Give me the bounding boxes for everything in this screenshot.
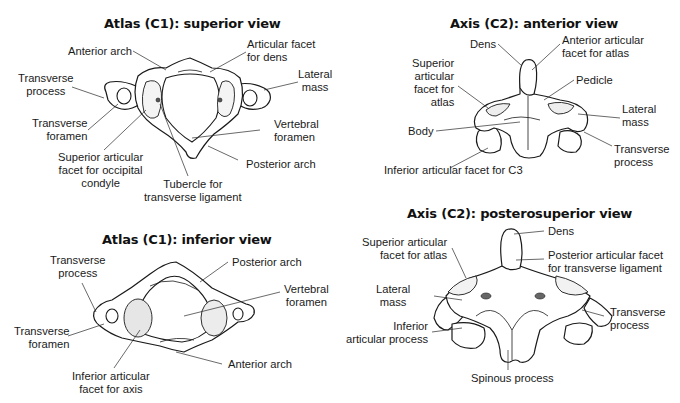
label-line: Tubercle for: [144, 178, 242, 191]
label-line: Transverse: [32, 117, 88, 130]
label-line: Posterior articular facet: [548, 249, 663, 262]
label-line: facet for atlas: [362, 249, 447, 262]
label-transverse-process: Transverse process: [50, 254, 106, 280]
label-inferior-articular-facet: Inferior articular facet for C3: [384, 164, 523, 177]
label-line: mass: [622, 116, 656, 129]
label-line: Superior articular: [362, 236, 447, 249]
label-spinous-process: Spinous process: [471, 372, 554, 385]
atlas-inferior-title: Atlas (C1): inferior view: [102, 232, 272, 247]
label-line: Transverse: [50, 254, 106, 267]
label-line: Vertebral: [284, 283, 329, 296]
label-line: process: [610, 319, 666, 332]
label-line: mass: [298, 81, 332, 94]
label-line: articular process: [346, 333, 428, 346]
label-anterior-arch: Anterior arch: [68, 45, 132, 58]
label-line: process: [50, 267, 106, 280]
label-line: atlas: [412, 96, 454, 109]
label-line: Lateral: [376, 283, 410, 296]
atlas-superior-drawing: [105, 58, 271, 158]
label-vertebral-foramen: Vertebral foramen: [284, 283, 329, 309]
label-line: facet for atlas: [562, 47, 644, 60]
label-line: Transverse: [18, 72, 74, 85]
label-transverse-process: Transverse process: [614, 143, 670, 169]
label-line: Anterior articular: [562, 34, 644, 47]
label-line: mass: [376, 296, 410, 309]
label-line: facet for axis: [72, 383, 150, 396]
label-line: Transverse: [14, 325, 70, 338]
label-posterior-arch: Posterior arch: [246, 158, 316, 171]
atlas-superior-title: Atlas (C1): superior view: [104, 16, 281, 31]
label-line: Inferior articular: [72, 370, 150, 383]
label-line: Articular facet: [247, 38, 315, 51]
label-line: Lateral: [622, 103, 656, 116]
label-line: Transverse: [610, 306, 666, 319]
axis-posterosuperior-title: Axis (C2): posterosuperior view: [407, 206, 632, 221]
label-line: Inferior: [346, 320, 428, 333]
diagram-artwork: [0, 0, 680, 403]
label-tubercle: Tubercle for transverse ligament: [144, 178, 242, 204]
label-dens: Dens: [548, 225, 574, 238]
label-transverse-process: Transverse process: [18, 72, 74, 98]
label-lateral-mass: Lateral mass: [622, 103, 656, 129]
axis-anterior-title: Axis (C2): anterior view: [450, 16, 618, 31]
label-inferior-articular-facet: Inferior articular facet for axis: [72, 370, 150, 396]
label-transverse-foramen: Transverse foramen: [14, 325, 70, 351]
label-anterior-articular-facet: Anterior articular facet for atlas: [562, 34, 644, 60]
label-line: Vertebral: [274, 118, 319, 131]
label-line: Lateral: [298, 68, 332, 81]
label-line: foramen: [32, 130, 88, 143]
label-pedicle: Pedicle: [576, 74, 613, 87]
label-posterior-articular-facet: Posterior articular facet for transverse…: [548, 249, 663, 275]
label-inferior-articular-process: Inferior articular process: [346, 320, 428, 346]
label-posterior-arch: Posterior arch: [232, 256, 302, 269]
label-transverse-foramen: Transverse foramen: [32, 117, 88, 143]
label-line: condyle: [58, 177, 143, 190]
label-line: Superior: [412, 57, 454, 70]
label-line: Superior articular: [58, 151, 143, 164]
label-line: process: [614, 156, 670, 169]
label-lateral-mass: Lateral mass: [298, 68, 332, 94]
axis-anterior-drawing: [474, 60, 587, 158]
label-superior-articular-facet: Superior articular facet for atlas: [362, 236, 447, 262]
label-line: process: [18, 85, 74, 98]
label-line: foramen: [14, 338, 70, 351]
label-superior-articular-facet: Superior articular facet for atlas: [412, 57, 454, 109]
label-line: for transverse ligament: [548, 262, 663, 275]
label-superior-articular-facet: Superior articular facet for occipital c…: [58, 151, 143, 190]
label-line: transverse ligament: [144, 191, 242, 204]
label-anterior-arch: Anterior arch: [228, 358, 292, 371]
label-line: facet for occipital: [58, 164, 143, 177]
label-line: Transverse: [614, 143, 670, 156]
label-line: facet for: [412, 83, 454, 96]
label-dens: Dens: [470, 38, 496, 51]
label-articular-facet-dens: Articular facet for dens: [247, 38, 315, 64]
label-lateral-mass: Lateral mass: [376, 283, 410, 309]
label-line: foramen: [274, 131, 319, 144]
label-transverse-process: Transverse process: [610, 306, 666, 332]
label-vertebral-foramen: Vertebral foramen: [274, 118, 319, 144]
label-line: articular: [412, 70, 454, 83]
label-body: Body: [408, 125, 434, 138]
label-line: for dens: [247, 51, 315, 64]
label-line: foramen: [284, 296, 329, 309]
atlas-inferior-drawing: [94, 262, 255, 352]
